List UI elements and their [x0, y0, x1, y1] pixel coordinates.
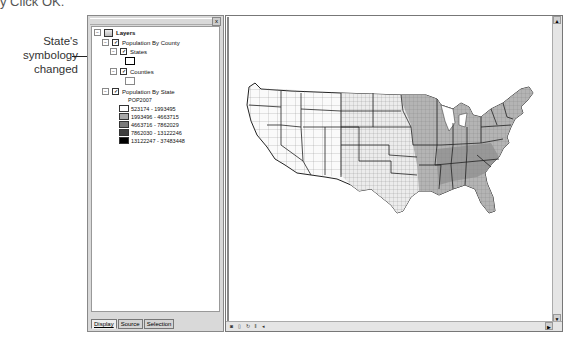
layer-label: States [130, 49, 147, 55]
legend-label: 523174 - 1993495 [131, 106, 176, 112]
layer-label: Counties [130, 69, 154, 75]
legend-class-1[interactable]: 523174 - 1993495 [119, 105, 176, 112]
legend-class-4[interactable]: 7862030 - 13122246 [119, 129, 182, 136]
legend-swatch[interactable] [119, 113, 129, 120]
scroll-up-button[interactable]: ▲ [553, 16, 561, 24]
tab-selection[interactable]: Selection [144, 319, 175, 329]
tree-layer-states[interactable]: − ✓ States [110, 47, 147, 56]
legend-label: 13122247 - 37483448 [131, 138, 185, 144]
group-label: Population By County [122, 40, 180, 46]
legend-swatch[interactable] [119, 121, 129, 128]
table-of-contents-panel: x − Layers − ✓ Population By County − ✓ … [87, 15, 224, 332]
scroll-left-icon[interactable]: ◂ [260, 323, 267, 329]
legend-swatch[interactable] [119, 105, 129, 112]
refresh-icon[interactable]: ↻ [244, 323, 251, 329]
data-view-icon[interactable]: ◙ [228, 323, 235, 329]
panel-grip[interactable] [90, 18, 213, 25]
map-canvas[interactable] [227, 17, 553, 322]
close-icon[interactable]: x [212, 17, 221, 26]
root-label: Layers [116, 30, 135, 36]
legend-class-2[interactable]: 1993496 - 4663715 [119, 113, 179, 120]
map-view-toolbar: ◙ ▯ ↻ ‖ ◂ [228, 323, 268, 329]
tree-root-layers[interactable]: − Layers [94, 28, 135, 37]
tree-group-population-by-state[interactable]: − ✓ Population By State [102, 87, 175, 96]
group-label: Population By State [122, 89, 175, 95]
legend-swatch[interactable] [119, 137, 129, 144]
collapse-icon[interactable]: − [102, 39, 109, 46]
legend-label: 1993496 - 4663715 [131, 114, 179, 120]
layer-checkbox[interactable]: ✓ [120, 48, 127, 55]
legend-class-3[interactable]: 4663716 - 7862029 [119, 121, 179, 128]
collapse-icon[interactable]: − [102, 88, 109, 95]
scroll-right-button[interactable]: ▶ [545, 322, 553, 330]
pause-icon[interactable]: ‖ [252, 323, 259, 329]
tab-display[interactable]: Display [91, 319, 117, 329]
collapse-icon[interactable]: − [110, 68, 117, 75]
collapse-icon[interactable]: − [94, 29, 101, 36]
map-display-window: ▲ ▼ ◙ ▯ ↻ ‖ ◂ ▶ [225, 15, 563, 332]
legend-class-5[interactable]: 13122247 - 37483448 [119, 137, 185, 144]
legend-swatch[interactable] [119, 129, 129, 136]
field-label: POP2007 [128, 97, 152, 103]
layer-checkbox[interactable]: ✓ [120, 68, 127, 75]
us-county-map[interactable] [241, 65, 551, 225]
tree-layer-counties[interactable]: − ✓ Counties [110, 67, 154, 76]
collapse-icon[interactable]: − [110, 48, 117, 55]
layers-icon [104, 29, 113, 37]
layer-checkbox[interactable]: ✓ [112, 39, 119, 46]
tree-group-population-by-county[interactable]: − ✓ Population By County [102, 38, 180, 47]
counties-symbol-swatch[interactable] [125, 77, 135, 85]
toc-tree: − Layers − ✓ Population By County − ✓ St… [91, 26, 220, 312]
step-caption: y Click OK. [0, 0, 64, 9]
tab-source[interactable]: Source [118, 319, 143, 329]
layer-checkbox[interactable]: ✓ [112, 88, 119, 95]
legend-label: 4663716 - 7862029 [131, 122, 179, 128]
toc-tabs: Display Source Selection [91, 319, 175, 329]
layout-view-icon[interactable]: ▯ [236, 323, 243, 329]
states-symbol-swatch[interactable] [125, 57, 135, 65]
legend-label: 7862030 - 13122246 [131, 130, 182, 136]
callout-annotation: State's symbology changed [0, 34, 78, 76]
vertical-scrollbar[interactable]: ▲ ▼ [552, 16, 562, 322]
legend-field-name: POP2007 [128, 97, 152, 103]
horizontal-scrollbar[interactable]: ◙ ▯ ↻ ‖ ◂ ▶ [226, 321, 562, 331]
